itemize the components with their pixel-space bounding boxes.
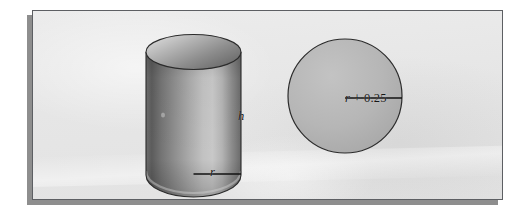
figure-plate: h r r + 0.25 (32, 10, 503, 200)
cylinder-height-label: h (238, 110, 244, 123)
cylinder-surface-speck (161, 112, 165, 117)
circle-radius-operator-sign: + (353, 91, 360, 105)
circle-radius-value: 0.25 (364, 91, 387, 105)
circle-radius-label: r + 0.25 (345, 92, 387, 105)
cylinder-top-face (146, 35, 241, 70)
cylinder-shape (146, 35, 241, 198)
figure-root: h r r + 0.25 (0, 0, 531, 218)
cylinder-height-variable: h (238, 109, 244, 123)
cylinder-radius-variable: r (210, 165, 215, 179)
cylinder-radius-label: r (210, 166, 215, 179)
cylinder-barrel-vertical-shading (146, 52, 241, 197)
shapes-canvas (33, 11, 503, 200)
